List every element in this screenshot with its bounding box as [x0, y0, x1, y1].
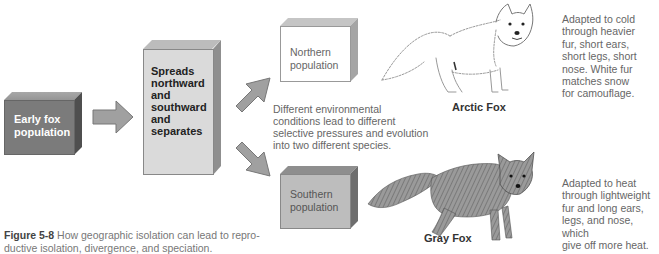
early-fox-population-box: Early fox population	[4, 92, 82, 155]
gray-desc-line5: give off more heat.	[562, 239, 659, 251]
arctic-desc-line5: nose. White fur	[562, 63, 637, 75]
right-arrow-icon	[92, 100, 134, 134]
southern-label-line2: population	[290, 201, 338, 214]
spread-line-5: and	[151, 113, 207, 125]
arctic-desc-line4: short legs, short	[562, 50, 637, 62]
arctic-fox-illustration	[378, 0, 538, 100]
up-right-arrow-icon	[234, 76, 272, 114]
middle-text-line2: conditions lead to different	[273, 115, 428, 127]
arctic-fox-name: Arctic Fox	[452, 101, 506, 113]
gray-fox-description: Adapted to heat through lightweight fur …	[562, 177, 659, 251]
down-right-arrow-icon	[234, 140, 272, 178]
gray-desc-line3: fur and long ears,	[562, 202, 659, 214]
spread-line-4: southward	[151, 101, 207, 113]
figure-caption: Figure 5-8 How geographic isolation can …	[4, 229, 260, 254]
spread-line-6: separates	[151, 125, 207, 137]
northern-label-line2: population	[290, 59, 338, 72]
middle-text-line3: selective pressures and evolution	[273, 127, 428, 139]
early-fox-label-line2: population	[14, 126, 70, 139]
northern-population-box: Northern population	[280, 18, 358, 82]
spread-line-3: and	[151, 89, 207, 101]
caption-line1: How geographic isolation can lead to rep…	[57, 229, 260, 241]
southern-label-line1: Southern	[290, 188, 338, 201]
spread-line-1: Spreads	[151, 65, 207, 77]
gray-desc-line4: legs, and nose, which	[562, 214, 659, 239]
gray-desc-line1: Adapted to heat	[562, 177, 659, 189]
gray-fox-name: Gray Fox	[424, 232, 472, 244]
gray-fox-illustration	[366, 148, 546, 244]
arctic-desc-line2: through heavier	[562, 25, 637, 37]
gray-desc-line2: through lightweight	[562, 189, 659, 201]
figure-label: Figure 5-8	[4, 229, 54, 241]
spread-separate-box: Spreads northward and southward and sepa…	[143, 40, 221, 175]
arctic-desc-line6: matches snow	[562, 75, 637, 87]
caption-line2: ductive isolation, divergence, and speci…	[4, 242, 260, 254]
early-fox-label-line1: Early fox	[14, 113, 70, 126]
middle-text-line1: Different environmental	[273, 103, 428, 115]
arctic-desc-line3: fur, short ears,	[562, 38, 637, 50]
selective-pressure-text: Different environmental conditions lead …	[273, 103, 428, 151]
northern-label-line1: Northern	[290, 46, 338, 59]
spread-line-2: northward	[151, 77, 207, 89]
arctic-desc-line7: for camouflage.	[562, 87, 637, 99]
arctic-fox-description: Adapted to cold through heavier fur, sho…	[562, 13, 637, 100]
arctic-desc-line1: Adapted to cold	[562, 13, 637, 25]
southern-population-box: Southern population	[280, 166, 358, 229]
